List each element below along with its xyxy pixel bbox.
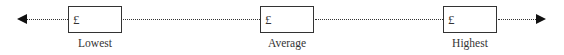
highest-label: Highest bbox=[430, 37, 510, 49]
dotted-line-mid-1 bbox=[123, 19, 260, 20]
currency-symbol: £ bbox=[265, 12, 272, 28]
dotted-line-left bbox=[27, 19, 68, 20]
arrow-left-icon bbox=[17, 14, 27, 24]
dotted-line-right bbox=[498, 19, 536, 20]
lowest-value-box[interactable]: £ bbox=[68, 6, 122, 33]
lowest-label: Lowest bbox=[55, 37, 135, 49]
currency-symbol: £ bbox=[448, 12, 455, 28]
average-label: Average bbox=[247, 37, 327, 49]
dotted-line-mid-2 bbox=[315, 19, 443, 20]
currency-symbol: £ bbox=[73, 12, 80, 28]
highest-value-box[interactable]: £ bbox=[443, 6, 497, 33]
arrow-right-icon bbox=[536, 14, 546, 24]
average-value-box[interactable]: £ bbox=[260, 6, 314, 33]
